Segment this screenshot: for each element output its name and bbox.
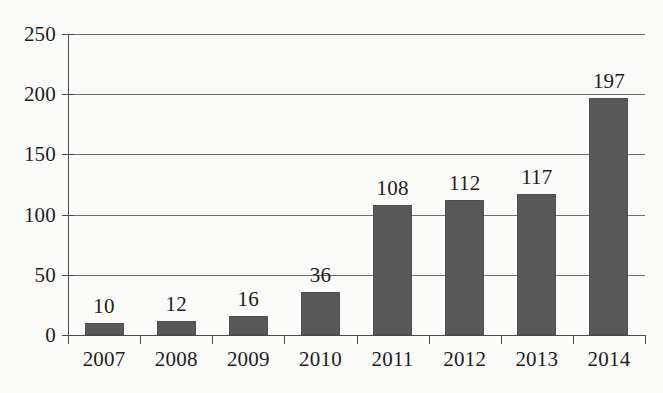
bar-2013 [517, 194, 556, 335]
x-tick-mark [573, 335, 574, 344]
x-tick-mark [140, 335, 141, 344]
bar-2014 [589, 98, 628, 335]
gridline-200 [68, 94, 645, 95]
gridline-250 [68, 34, 645, 35]
bar-2012 [445, 200, 484, 335]
x-axis-label-2014: 2014 [564, 349, 654, 370]
bar-value-label-2012: 112 [425, 173, 505, 194]
x-tick-mark [357, 335, 358, 344]
y-tick-mark-100 [62, 215, 74, 216]
bar-2009 [229, 316, 268, 335]
bar-value-label-2007: 10 [64, 296, 144, 317]
y-tick-mark-250 [62, 34, 74, 35]
gridline-150 [68, 154, 645, 155]
x-axis-start-tick [68, 335, 69, 344]
y-axis-tick-label: 250 [24, 24, 56, 45]
y-tick-mark-150 [62, 154, 74, 155]
bar-2011 [373, 205, 412, 335]
y-axis-tick-label: 200 [24, 84, 56, 105]
y-axis-tick-label: 100 [24, 205, 56, 226]
bar-2008 [157, 321, 196, 335]
bar-value-label-2008: 12 [136, 294, 216, 315]
y-tick-mark-200 [62, 94, 74, 95]
y-tick-mark-50 [62, 275, 74, 276]
bar-value-label-2014: 197 [569, 71, 649, 92]
bar-2007 [85, 323, 124, 335]
bar-value-label-2009: 16 [208, 289, 288, 310]
y-axis-tick-label: 50 [35, 265, 56, 286]
bar-2010 [301, 292, 340, 335]
y-axis-line [68, 34, 69, 335]
x-tick-mark [212, 335, 213, 344]
bar-value-label-2011: 108 [353, 178, 433, 199]
bar-chart: 050100150200250 10121636108112117197 200… [0, 0, 663, 393]
x-axis-end-tick [645, 335, 646, 344]
gridline-100 [68, 215, 645, 216]
bar-value-label-2010: 36 [280, 265, 360, 286]
bar-value-label-2013: 117 [497, 167, 577, 188]
x-tick-mark [284, 335, 285, 344]
y-axis-tick-label: 150 [24, 144, 56, 165]
x-tick-mark [501, 335, 502, 344]
y-axis-tick-label: 0 [45, 325, 56, 346]
x-tick-mark [429, 335, 430, 344]
